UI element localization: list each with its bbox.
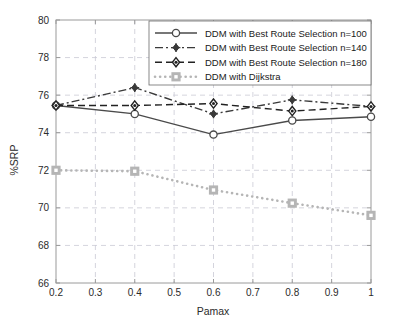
chart-figure: 0.20.30.40.50.60.70.80.91666870727476788…: [0, 0, 397, 323]
x-tick-label: 1: [368, 287, 374, 298]
x-axis-title: Pamax: [197, 305, 230, 317]
y-tick-label: 68: [38, 240, 50, 251]
x-tick-label: 0.5: [167, 287, 181, 298]
y-tick-label: 74: [38, 127, 50, 138]
x-tick-label: 0.7: [246, 287, 260, 298]
y-tick-label: 80: [38, 15, 50, 26]
plot-canvas: 0.20.30.40.50.60.70.80.91666870727476788…: [0, 0, 397, 323]
y-axis-title: %SRP: [8, 145, 20, 176]
legend-label: DDM with Best Route Selection n=180: [205, 57, 367, 68]
legend-label: DDM with Dijkstra: [205, 71, 281, 82]
x-tick-label: 0.4: [128, 287, 142, 298]
legend-label: DDM with Best Route Selection n=140: [205, 42, 367, 53]
y-tick-label: 72: [38, 165, 50, 176]
y-tick-label: 70: [38, 202, 50, 213]
chart-legend: DDM with Best Route Selection n=100DDM w…: [149, 21, 371, 85]
x-tick-label: 0.9: [325, 287, 339, 298]
x-tick-label: 0.6: [207, 287, 221, 298]
x-tick-label: 0.3: [88, 287, 102, 298]
legend-label: DDM with Best Route Selection n=100: [205, 28, 367, 39]
y-tick-label: 78: [38, 52, 50, 63]
x-tick-label: 0.8: [285, 287, 299, 298]
y-tick-label: 76: [38, 90, 50, 101]
legend-item[interactable]: DDM with Dijkstra: [155, 71, 281, 82]
y-tick-label: 66: [38, 278, 50, 289]
x-tick-label: 0.2: [49, 287, 63, 298]
